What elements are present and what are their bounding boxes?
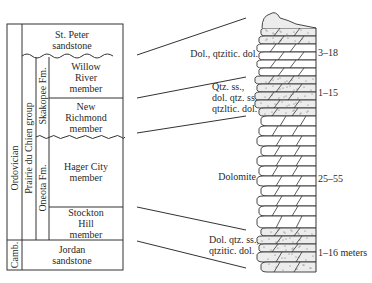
sand-stipple (307, 238, 308, 239)
correlation-line (137, 207, 246, 230)
sand-stipple (290, 238, 291, 239)
sand-stipple (289, 105, 290, 106)
sand-stipple (308, 111, 309, 112)
sand-stipple (281, 32, 282, 33)
sand-stipple (284, 97, 285, 98)
correlation-line (137, 116, 246, 133)
sand-stipple (267, 31, 268, 32)
sand-stipple (290, 86, 291, 87)
formation-skakopee: Skakopee Fm. (37, 67, 48, 124)
sand-stipple (278, 230, 279, 231)
sand-stipple (280, 78, 281, 79)
sand-stipple (271, 250, 272, 251)
sand-stipple (279, 241, 280, 242)
sand-stipple (303, 265, 304, 266)
sand-stipple (313, 79, 314, 80)
unit-new-richmond: New Richmond member (65, 101, 107, 134)
sand-stipple (273, 86, 274, 87)
sand-stipple (287, 81, 288, 82)
sand-stipple (271, 232, 272, 233)
unit-jordan: Jordan sandstone (52, 244, 92, 266)
sand-stipple (282, 102, 283, 103)
sand-stipple (286, 96, 287, 97)
sand-stipple (284, 232, 285, 233)
sandstone-bed (259, 244, 316, 252)
thickness-label: 25–55 (318, 173, 343, 184)
sand-stipple (274, 34, 275, 35)
sand-stipple (305, 96, 306, 97)
sand-stipple (266, 30, 267, 31)
sand-stipple (296, 257, 297, 258)
sand-stipple (312, 94, 313, 95)
sand-stipple (295, 41, 296, 42)
sand-stipple (278, 79, 279, 80)
dolomite-bed (259, 166, 316, 176)
sand-stipple (292, 80, 293, 81)
sand-stipple (280, 41, 281, 42)
sandstone-bed (261, 262, 316, 272)
sand-stipple (296, 103, 297, 104)
sand-stipple (272, 95, 273, 96)
sand-stipple (278, 248, 279, 249)
unit-line: sandstone (52, 40, 92, 51)
sand-stipple (289, 254, 290, 255)
lithology-label: Dolomite (218, 171, 256, 182)
thickness-label: 1–15 (318, 87, 338, 98)
lithology-label: qtzltic. dol. (212, 103, 257, 114)
column-top-cap (262, 13, 316, 28)
sand-stipple (264, 247, 265, 248)
sandstone-bed (261, 28, 316, 36)
sand-stipple (287, 34, 288, 35)
sand-stipple (285, 258, 286, 259)
sand-stipple (266, 40, 267, 41)
sand-stipple (293, 248, 294, 249)
sand-stipple (279, 110, 280, 111)
sand-stipple (294, 32, 295, 33)
sandstone-bed (257, 252, 316, 262)
sand-stipple (287, 87, 288, 88)
sand-stipple (276, 267, 277, 268)
sand-stipple (280, 89, 281, 90)
sand-stipple (309, 42, 310, 43)
period-ordovician: Ordovician (9, 146, 20, 191)
unit-line: Stockton (68, 207, 104, 218)
sand-stipple (290, 266, 291, 267)
sand-stipple (283, 240, 284, 241)
lithology-label: Qtz. ss., (212, 81, 244, 92)
sand-stipple (300, 114, 301, 115)
dolomite-bed (259, 52, 316, 60)
sand-stipple (311, 90, 312, 91)
sand-stipple (273, 33, 274, 34)
unit-line: sandstone (52, 255, 92, 266)
weathering-profile-column (255, 13, 316, 272)
sand-stipple (279, 98, 280, 99)
sand-stipple (308, 105, 309, 106)
sand-stipple (274, 42, 275, 43)
sand-stipple (294, 104, 295, 105)
unit-line: Hager City (64, 161, 108, 172)
sand-stipple (298, 98, 299, 99)
lithology-label: Dol., qtzitic. dol. (190, 48, 258, 59)
unit-line: member (70, 229, 103, 240)
unit-stockton-hill: Stockton Hill member (68, 207, 104, 240)
sand-stipple (292, 254, 293, 255)
formation-oneota: Oneota Fm. (37, 164, 48, 211)
group-prairie-du-chien: Prairie du Chien group (23, 102, 34, 193)
sand-stipple (269, 239, 270, 240)
unit-line: St. Peter (55, 29, 90, 40)
sand-stipple (282, 258, 283, 259)
dolomite-bed (257, 176, 316, 186)
sand-stipple (272, 112, 273, 113)
sand-stipple (266, 82, 267, 83)
unit-st-peter: St. Peter sandstone (52, 29, 92, 51)
sand-stipple (304, 87, 305, 88)
thickness-label: 3–18 (318, 47, 338, 58)
period-cambrian: Camb. (9, 242, 20, 268)
sand-stipple (262, 241, 263, 242)
sand-stipple (301, 113, 302, 114)
sand-stipple (307, 249, 308, 250)
sandstone-bed (259, 36, 316, 44)
sand-stipple (297, 269, 298, 270)
sandstone-bed (255, 76, 316, 84)
dolomite-bed (257, 196, 316, 206)
